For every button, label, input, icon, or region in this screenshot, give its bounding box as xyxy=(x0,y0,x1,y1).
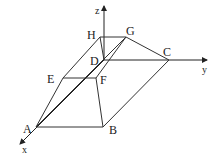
label-H: H xyxy=(87,28,96,42)
label-E: E xyxy=(47,72,54,86)
label-A: A xyxy=(23,122,32,136)
edge-DH xyxy=(100,37,104,60)
edge-BC xyxy=(103,60,169,127)
edge-FG xyxy=(96,37,126,78)
label-z-axis: z xyxy=(95,5,100,16)
x-axis xyxy=(20,60,104,144)
label-x-axis: x xyxy=(22,144,27,153)
label-G: G xyxy=(126,24,135,38)
diagram-canvas: A B C D E F G H x y z xyxy=(0,0,213,153)
label-F: F xyxy=(100,73,107,87)
label-D: D xyxy=(90,54,99,68)
label-C: C xyxy=(163,45,171,59)
label-B: B xyxy=(109,123,117,137)
label-y-axis: y xyxy=(202,64,207,75)
